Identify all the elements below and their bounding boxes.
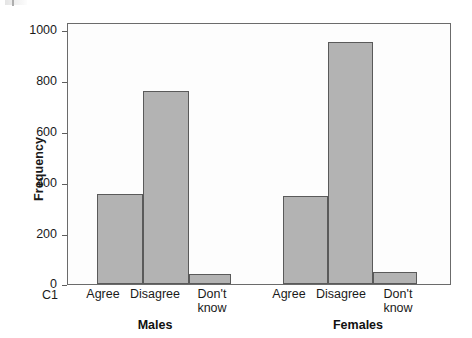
bar-females-dont-know bbox=[373, 272, 417, 284]
y-tick-line bbox=[62, 285, 67, 286]
cat-label-males-disagree: Disagree bbox=[124, 288, 186, 302]
cat-label-females-disagree: Disagree bbox=[310, 288, 372, 302]
cat-label-females-dont-know: Don't know bbox=[370, 288, 426, 315]
y-axis-title: Frequency bbox=[32, 137, 46, 201]
axis-variable-label: C1 bbox=[42, 288, 58, 302]
y-tick-label: 200 bbox=[36, 227, 57, 241]
cat-label-males-dont-know: Don't know bbox=[184, 288, 240, 315]
bar-females-disagree bbox=[328, 42, 373, 284]
y-tick-label: 1000 bbox=[29, 23, 57, 37]
bar-chart-figure: Frequency 1000 800 600 400 200 0 C1 Agre… bbox=[0, 0, 472, 338]
y-tick-label: 600 bbox=[36, 125, 57, 139]
bar-females-agree bbox=[283, 196, 328, 284]
bar-males-disagree bbox=[143, 91, 189, 284]
cat-label-females-agree: Agree bbox=[262, 288, 316, 302]
cat-label-males-agree: Agree bbox=[76, 288, 130, 302]
group-label-males: Males bbox=[120, 318, 190, 332]
group-label-females: Females bbox=[318, 318, 398, 332]
y-tick-label: 800 bbox=[36, 74, 57, 88]
y-tick-label: 400 bbox=[36, 176, 57, 190]
bar-males-dont-know bbox=[189, 274, 231, 284]
bar-males-agree bbox=[97, 194, 143, 284]
plot-area bbox=[67, 23, 451, 285]
